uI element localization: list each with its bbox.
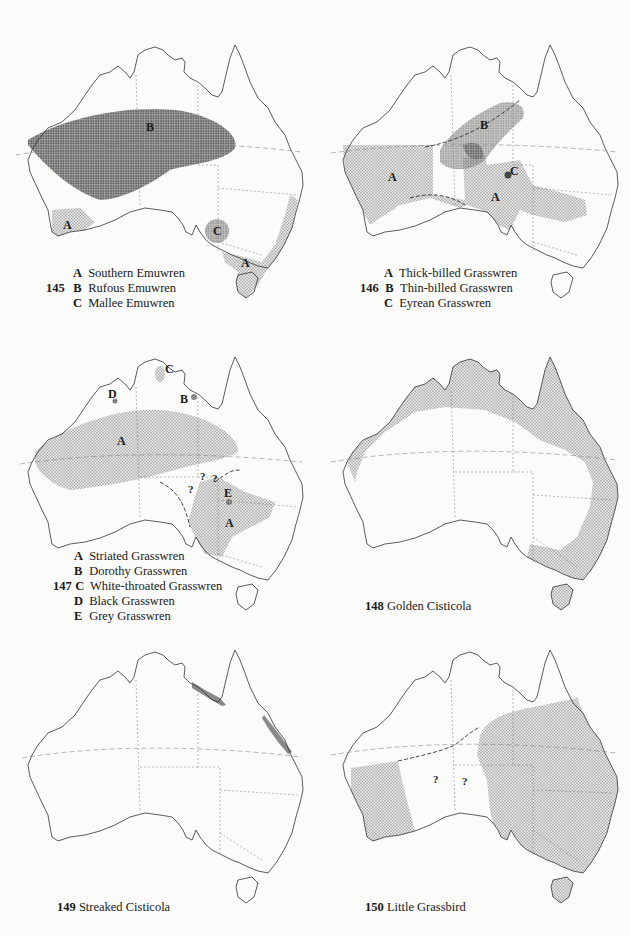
map-number: 149 xyxy=(57,900,76,915)
legend-species-name: Dorothy Grasswren xyxy=(89,564,187,578)
map-panel-148: 148 Golden Cisticola xyxy=(315,312,630,622)
australia-map xyxy=(0,630,315,936)
map-label-c: C xyxy=(510,164,519,179)
map-label-a: A xyxy=(117,434,126,449)
map-label-a: A xyxy=(241,256,250,271)
map-label-a: A xyxy=(388,170,397,185)
uncertain-range-marker: ? xyxy=(462,775,468,787)
map-panel-146: B A C A A Thick-billed Grasswren 146 B T… xyxy=(315,0,630,310)
legend-species-name: Striated Grasswren xyxy=(89,549,184,563)
map-label-a: A xyxy=(225,516,234,531)
australia-map xyxy=(315,630,630,936)
map-number: 150 xyxy=(365,900,384,915)
australia-map xyxy=(0,0,315,310)
uncertain-range-marker: ? xyxy=(188,483,194,495)
map-label-c: C xyxy=(213,224,222,239)
range-streaked-cisticola-east xyxy=(262,715,292,754)
legend-species-name: Thick-billed Grasswren xyxy=(399,266,517,280)
map-legend: A Southern Emuwren 145 B Rufous Emuwren … xyxy=(46,266,185,311)
map-panel-145: B A C A A Southern Emuwren 145 B Rufous … xyxy=(0,0,315,310)
australia-map xyxy=(315,312,630,622)
map-legend: A Striated Grasswren B Dorothy Grasswren… xyxy=(53,549,222,624)
uncertain-range-marker: ? xyxy=(433,773,439,785)
range-little-grassbird-east xyxy=(477,697,618,873)
range-b-rufous xyxy=(28,109,236,200)
map-panel-149: 149 Streaked Cisticola xyxy=(0,630,315,936)
map-caption: 149 Streaked Cisticola xyxy=(57,900,170,915)
legend-species-name: Thin-billed Grasswren xyxy=(400,281,513,295)
legend-species-name: Rufous Emuwren xyxy=(88,281,176,295)
uncertain-range-marker: ? xyxy=(212,472,218,484)
map-title: Little Grassbird xyxy=(387,900,466,914)
map-caption: 148 Golden Cisticola xyxy=(365,599,471,614)
legend-species-name: Mallee Emuwren xyxy=(88,296,174,310)
map-number: 147 xyxy=(53,579,72,594)
uncertain-range-marker: ? xyxy=(200,470,206,482)
legend-species-name: Eyrean Grasswren xyxy=(399,296,491,310)
map-label-c: C xyxy=(165,362,174,377)
range-little-grassbird-west xyxy=(351,761,415,841)
map-label-b: B xyxy=(146,120,154,135)
range-b-thin-billed xyxy=(440,102,524,169)
range-golden-cisticola xyxy=(347,357,618,580)
map-label-d: D xyxy=(108,387,117,402)
map-title: Golden Cisticola xyxy=(387,599,471,613)
map-panel-147: C D B A E A ? ? ? A Striated Grasswren B… xyxy=(0,312,315,622)
legend-species-name: White-throated Grasswren xyxy=(90,579,222,593)
map-title: Streaked Cisticola xyxy=(79,900,170,914)
australia-map xyxy=(315,0,630,310)
map-number: 146 xyxy=(360,281,382,296)
map-label-b: B xyxy=(180,392,188,407)
map-panel-150: ? ? 150 Little Grassbird xyxy=(315,630,630,936)
legend-species-name: Southern Emuwren xyxy=(88,266,185,280)
map-label-a: A xyxy=(491,190,500,205)
range-a-striated-west xyxy=(35,410,238,490)
map-label-e: E xyxy=(224,486,232,501)
range-c-white-throated xyxy=(155,366,165,382)
map-label-b: B xyxy=(480,118,488,133)
map-label-a: A xyxy=(63,218,72,233)
map-caption: 150 Little Grassbird xyxy=(365,900,466,915)
map-number: 148 xyxy=(365,599,384,614)
map-number: 145 xyxy=(46,281,70,296)
map-legend: A Thick-billed Grasswren 146 B Thin-bill… xyxy=(360,266,517,311)
legend-species-name: Grey Grasswren xyxy=(89,609,171,623)
range-b-dorothy xyxy=(191,394,197,400)
range-streaked-cisticola-gulf xyxy=(192,682,226,706)
legend-species-name: Black Grasswren xyxy=(89,594,175,608)
